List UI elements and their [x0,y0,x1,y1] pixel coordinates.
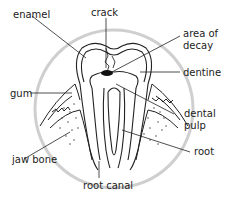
label-area-of-decay-line2: decay [183,40,213,51]
bone-dots [59,103,167,145]
label-root-canal: root canal [83,180,133,191]
label-area-of-decay-line1: area of [183,28,218,39]
label-root: root [194,146,214,157]
background-circle [35,30,193,188]
label-dentine: dentine [183,67,221,78]
label-dental-pulp-line2: pulp [184,120,206,131]
label-crack: crack [91,7,118,18]
label-dental-pulp-line1: dental [184,108,216,119]
tooth [76,43,151,170]
crack-and-decay [105,48,115,72]
label-gum: gum [10,88,32,99]
gum-and-bone [40,84,188,160]
label-jaw-bone: jaw bone [12,154,57,165]
decay-spot [101,70,113,76]
label-enamel: enamel [13,9,50,20]
